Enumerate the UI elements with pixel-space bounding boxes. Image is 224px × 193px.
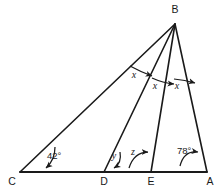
triangle-figure-svg: B C D E A 42° 78° y z x x x [0,0,224,193]
segment-cevian-EB [151,24,175,172]
vertex-label-D: D [100,175,108,187]
angle-label-C: 42° [47,150,62,161]
angle-label-x3: x [174,80,180,91]
angle-label-y: y [111,150,117,161]
vertex-label-C: C [8,175,16,187]
vertex-label-B: B [171,3,178,15]
angle-label-x1: x [131,69,137,80]
angle-label-z: z [130,146,135,157]
geometry-diagram: B C D E A 42° 78° y z x x x [0,0,224,193]
angle-label-A: 78° [177,145,192,156]
segment-side-CB [20,24,175,172]
angle-label-x2: x [152,80,158,91]
vertex-label-E: E [147,175,154,187]
vertex-label-A: A [206,175,213,187]
